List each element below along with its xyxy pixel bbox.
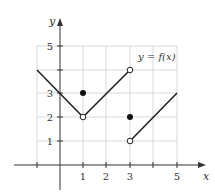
y-tick-3: 3 <box>47 88 53 99</box>
x-tick-3: 3 <box>127 171 133 182</box>
x-tick-1: 1 <box>80 171 86 182</box>
y-tick-5: 5 <box>47 41 53 52</box>
x-tick-2: 2 <box>103 171 109 182</box>
y-tick-1: 1 <box>47 136 53 147</box>
x-tick-5: 5 <box>174 171 180 182</box>
function-label: y = f(x) <box>137 51 176 62</box>
open-point-3-1 <box>127 138 133 144</box>
closed-point-3-2 <box>127 114 133 120</box>
function-curve <box>37 70 177 139</box>
y-axis-arrow-icon <box>57 18 63 26</box>
y-tick-2: 2 <box>47 112 53 123</box>
tick-labels: 1 2 3 5 1 2 3 5 <box>47 41 181 182</box>
x-axis-label: x <box>203 170 210 183</box>
x-axis-arrow-icon <box>198 162 206 168</box>
function-graph: 1 2 3 5 1 2 3 5 x y y = f(x) <box>0 0 215 194</box>
closed-point-1-3 <box>80 90 86 96</box>
ticks <box>37 46 177 168</box>
grid <box>37 46 177 165</box>
open-point-1-2 <box>80 114 86 120</box>
y-axis-label: y <box>48 15 56 28</box>
axes <box>14 24 200 190</box>
open-point-3-4 <box>127 67 133 73</box>
